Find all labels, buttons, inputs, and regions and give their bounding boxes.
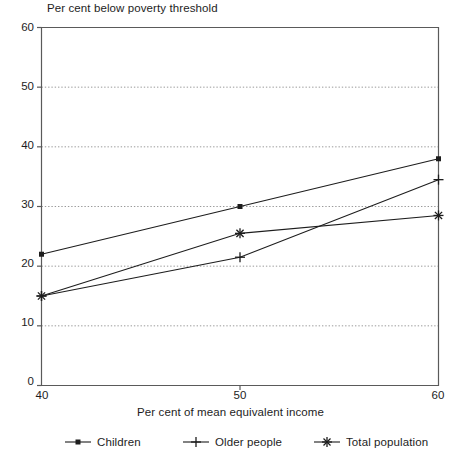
- axis-ticks: [37, 28, 240, 391]
- legend-label-total-population: Total population: [346, 436, 428, 448]
- y-tick-label-50: 50: [4, 80, 34, 92]
- legend-marker-plus-icon: [182, 435, 210, 449]
- y-tick-label-40: 40: [4, 139, 34, 151]
- chart-title: Per cent below poverty threshold: [47, 2, 218, 14]
- legend: Children Older people Total population: [0, 432, 461, 452]
- axis-frame: [42, 28, 439, 386]
- legend-marker-square-dot-icon: [64, 435, 92, 449]
- poverty-threshold-line-chart: Per cent below poverty threshold 60 50 4…: [0, 0, 461, 459]
- legend-item-total-population[interactable]: Total population: [313, 432, 428, 452]
- x-axis-label: Per cent of mean equivalent income: [0, 406, 461, 418]
- gridlines: [42, 87, 439, 326]
- y-tick-label-10: 10: [4, 316, 34, 328]
- x-tick-label-60: 60: [418, 389, 458, 401]
- data-series: [37, 156, 444, 301]
- y-tick-label-60: 60: [4, 21, 34, 33]
- x-tick-label-40: 40: [22, 389, 62, 401]
- legend-label-older-people: Older people: [215, 436, 282, 448]
- legend-item-older-people[interactable]: Older people: [182, 432, 282, 452]
- legend-label-children: Children: [97, 436, 141, 448]
- x-tick-label-50: 50: [220, 389, 260, 401]
- y-tick-label-20: 20: [4, 257, 34, 269]
- y-tick-label-0: 0: [4, 375, 34, 387]
- legend-marker-asterisk-icon: [313, 435, 341, 449]
- legend-item-children[interactable]: Children: [64, 432, 141, 452]
- y-tick-label-30: 30: [4, 198, 34, 210]
